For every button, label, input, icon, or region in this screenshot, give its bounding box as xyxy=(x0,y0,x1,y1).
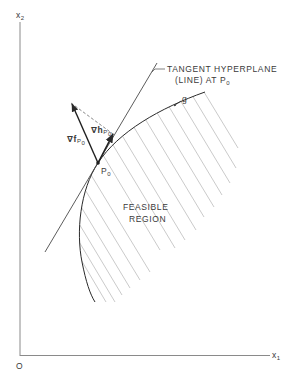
origin-label: O xyxy=(16,361,23,371)
point-p0 xyxy=(96,161,100,165)
tangent-label-line2: (LINE) AT P0 xyxy=(175,75,230,86)
g-leader xyxy=(174,101,181,106)
tangent-label-line1: TANGENT HYPERPLANE xyxy=(167,64,277,74)
feasible-region-label-line1: FEASIBLE xyxy=(123,202,168,212)
constraint-curve-g xyxy=(79,92,205,302)
feasible-region-label-line2: REGION xyxy=(129,214,166,224)
constraint-label-g: g xyxy=(182,94,187,104)
grad-f-label: ∇fP0 xyxy=(67,134,86,146)
diagram-canvas: x2 x1 O TANGENT HYPERPLANE (LINE) AT P0 … xyxy=(0,0,293,379)
feasible-region-hatching xyxy=(78,92,238,302)
grad-h-label: ∇hP0 xyxy=(91,125,112,137)
point-p0-label: P0 xyxy=(101,166,111,177)
x-axis-label: x1 xyxy=(272,350,281,361)
y-axis-label: x2 xyxy=(16,10,25,21)
